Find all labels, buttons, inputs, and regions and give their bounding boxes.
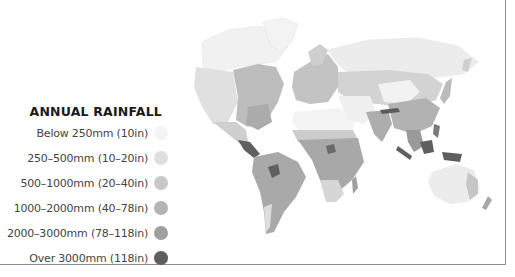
north-america-west	[194, 67, 238, 124]
south-america	[252, 152, 306, 234]
swatch-circle-icon	[154, 201, 168, 215]
new-zealand	[482, 196, 492, 210]
legend-label: 500–1000mm (20–40in)	[20, 177, 148, 190]
philippines	[433, 124, 440, 138]
legend-label: Below 250mm (10in)	[36, 127, 148, 140]
legend-item-2000-3000: 2000–3000mm (78–118in)	[7, 224, 168, 242]
swatch-circle-icon	[154, 226, 168, 240]
legend-item-250-500: 250–500mm (10–20in)	[27, 149, 168, 167]
legend-title: ANNUAL RAINFALL	[30, 104, 162, 119]
southeast-asia	[406, 130, 424, 152]
legend-label: 2000–3000mm (78–118in)	[7, 227, 148, 240]
legend-item-below-250: Below 250mm (10in)	[36, 124, 168, 142]
swatch-circle-icon	[154, 151, 168, 165]
legend-item-500-1000: 500–1000mm (20–40in)	[20, 174, 168, 192]
central-america	[238, 140, 260, 158]
sumatra	[396, 146, 412, 160]
mexico	[213, 122, 248, 144]
madagascar	[352, 176, 358, 194]
legend-label: Over 3000mm (118in)	[29, 252, 148, 265]
new-guinea	[442, 152, 462, 162]
world-rainfall-map	[188, 12, 498, 237]
legend-item-1000-2000: 1000–2000mm (40–78in)	[14, 199, 168, 217]
swatch-circle-icon	[154, 176, 168, 190]
india	[366, 110, 392, 142]
swatch-circle-icon	[154, 126, 168, 140]
japan	[440, 78, 452, 104]
legend-label: 250–500mm (10–20in)	[27, 152, 148, 165]
swatch-circle-icon	[154, 251, 168, 265]
legend-item-over-3000: Over 3000mm (118in)	[29, 249, 168, 267]
borneo	[420, 140, 434, 154]
legend-label: 1000–2000mm (40–78in)	[14, 202, 148, 215]
east-asia	[388, 98, 440, 134]
